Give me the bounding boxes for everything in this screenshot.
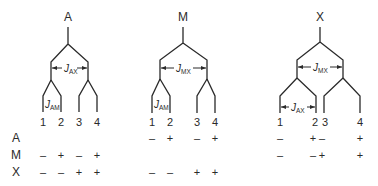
tree-a: A J AX J AM 1 2 3 4: [40, 10, 100, 128]
tree-x-spin-states: – + – + – – + +: [277, 132, 363, 161]
tree-a-spin-states: – + – + – – + +: [40, 149, 100, 178]
svg-text:+: +: [212, 132, 218, 144]
svg-text:+: +: [310, 132, 316, 144]
line-number-3: 3: [194, 116, 200, 128]
line-number-1: 1: [149, 116, 155, 128]
coupling-label-jam: J AM: [153, 99, 169, 111]
row-label-m: M: [11, 148, 21, 162]
line-number-2: 2: [312, 116, 318, 128]
coupling-label-subscript: AX: [69, 68, 78, 75]
svg-text:–: –: [149, 132, 156, 144]
row-label-a: A: [12, 131, 20, 145]
svg-text:–: –: [58, 166, 65, 178]
row-labels: A M X: [11, 131, 21, 179]
svg-text:–: –: [277, 149, 284, 161]
svg-text:MX: MX: [181, 68, 191, 75]
tree-m-spin-states: – + – + – – + +: [149, 132, 218, 178]
svg-text:+: +: [357, 132, 363, 144]
svg-text:+: +: [94, 166, 100, 178]
svg-text:AX: AX: [296, 107, 305, 114]
splitting-diagram: A J AX J AM 1 2 3 4 A M X – + – + –: [0, 0, 378, 186]
svg-text:–: –: [40, 166, 47, 178]
svg-text:–: –: [167, 166, 174, 178]
line-number-2: 2: [58, 116, 64, 128]
line-number-4: 4: [212, 116, 218, 128]
svg-text:–: –: [194, 132, 201, 144]
svg-text:–: –: [40, 149, 47, 161]
svg-text:–: –: [76, 149, 83, 161]
tree-m-title: M: [178, 10, 188, 24]
svg-text:+: +: [167, 132, 173, 144]
svg-text:AM: AM: [159, 104, 169, 111]
tree-x: X J MX J AX 1 2 3 4: [277, 10, 363, 128]
line-number-4: 4: [94, 116, 100, 128]
line-number-2: 2: [167, 116, 173, 128]
line-number-3: 3: [322, 116, 328, 128]
svg-text:+: +: [319, 149, 325, 161]
line-number-1: 1: [277, 116, 283, 128]
svg-text:+: +: [76, 166, 82, 178]
svg-text:+: +: [94, 149, 100, 161]
line-number-3: 3: [76, 116, 82, 128]
line-number-1: 1: [40, 116, 46, 128]
coupling-label-jam: J AM: [44, 99, 60, 111]
svg-text:–: –: [319, 132, 326, 144]
svg-text:MX: MX: [318, 67, 328, 74]
svg-text:AM: AM: [50, 104, 60, 111]
tree-m-right-split: [197, 79, 215, 113]
tree-a-right-split: [79, 80, 97, 112]
svg-text:+: +: [58, 149, 64, 161]
tree-m: M J MX J AM 1 2 3 4: [149, 10, 218, 128]
svg-text:+: +: [357, 149, 363, 161]
svg-text:+: +: [194, 166, 200, 178]
svg-text:–: –: [310, 149, 317, 161]
coupling-arrow-jmx: J MX: [298, 62, 342, 74]
row-label-x: X: [12, 165, 20, 179]
line-number-4: 4: [357, 116, 363, 128]
svg-text:–: –: [149, 166, 156, 178]
svg-text:–: –: [277, 132, 284, 144]
tree-x-right-split: [324, 78, 360, 113]
coupling-arrow-jmx: J MX: [161, 63, 206, 75]
coupling-arrow-jax: J AX: [52, 63, 87, 75]
coupling-arrow-jax: J AX: [281, 102, 315, 114]
tree-x-title: X: [316, 10, 324, 24]
svg-text:+: +: [212, 166, 218, 178]
tree-a-title: A: [64, 10, 72, 24]
